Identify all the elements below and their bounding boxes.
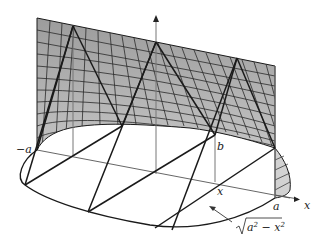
sqrt-pointer — [212, 208, 232, 222]
solid-diagram: −a a b x x a2 − x2 — [0, 0, 326, 245]
label-x-axis: x — [304, 199, 311, 212]
label-b: b — [217, 140, 224, 153]
x-axis-arrow-icon — [294, 197, 300, 203]
base-ellipse — [20, 150, 275, 227]
shaded-surface — [37, 18, 290, 154]
svg-text:a2 − x2: a2 − x2 — [247, 221, 285, 234]
label-sqrt: a2 − x2 — [236, 218, 285, 234]
label-x-point: x — [217, 185, 224, 198]
diameter-line — [37, 150, 290, 198]
vertical-axis-arrow-icon — [153, 15, 159, 22]
label-neg-a: −a — [16, 143, 32, 156]
label-a: a — [273, 200, 280, 213]
right-end-face — [275, 148, 290, 198]
